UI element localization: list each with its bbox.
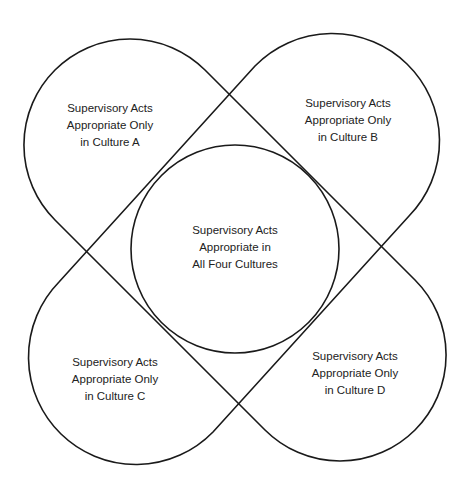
label-culture-b: Supervisory Acts Appropriate Only in Cul… [273,95,423,146]
label-culture-a: Supervisory Acts Appropriate Only in Cul… [35,100,185,151]
label-line: Appropriate Only [40,371,190,388]
label-line: Appropriate Only [35,117,185,134]
label-line: Supervisory Acts [35,100,185,117]
label-line: in Culture C [40,388,190,405]
label-line: in Culture A [35,134,185,151]
label-culture-d: Supervisory Acts Appropriate Only in Cul… [280,348,430,399]
label-line: Appropriate Only [273,112,423,129]
label-line: Supervisory Acts [273,95,423,112]
label-line: Appropriate Only [280,365,430,382]
label-all-four-cultures: Supervisory Acts Appropriate in All Four… [160,222,310,273]
label-line: Supervisory Acts [280,348,430,365]
label-line: in Culture B [273,129,423,146]
label-line: in Culture D [280,382,430,399]
label-line: All Four Cultures [160,256,310,273]
label-line: Supervisory Acts [40,354,190,371]
label-culture-c: Supervisory Acts Appropriate Only in Cul… [40,354,190,405]
label-line: Appropriate in [160,239,310,256]
label-line: Supervisory Acts [160,222,310,239]
